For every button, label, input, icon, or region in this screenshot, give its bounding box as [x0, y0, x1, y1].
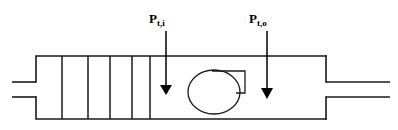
outlet-pressure-arrow [261, 31, 273, 99]
inlet-pressure-label: Pt,i [149, 12, 165, 25]
housing-outline-left [36, 56, 326, 82]
outlet-pressure-subscript: t,o [257, 18, 267, 28]
outlet-arrow-head [261, 88, 273, 99]
rotor-ellipse [188, 70, 240, 114]
inlet-pressure-symbol: P [149, 11, 157, 26]
housing-outline-left-lower [36, 97, 326, 119]
outlet-pressure-symbol: P [249, 11, 257, 26]
duct-schematic-diagram: Pt,i Pt,o [0, 0, 398, 130]
inlet-pressure-subscript: t,i [157, 18, 165, 28]
outlet-pressure-label: Pt,o [249, 12, 267, 25]
inlet-arrow-head [160, 85, 172, 95]
inlet-pressure-arrow [160, 31, 172, 95]
schematic-canvas [0, 0, 398, 130]
